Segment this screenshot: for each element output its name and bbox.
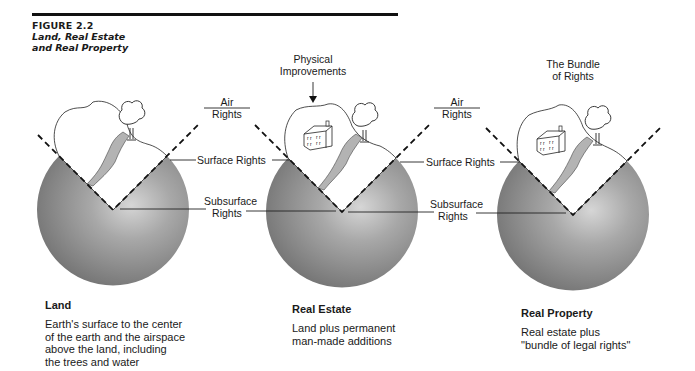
real-property-desc-line: "bundle of legal rights" bbox=[521, 339, 695, 352]
real-estate-desc-line: man-made additions bbox=[292, 335, 492, 348]
air-rights-line1: Air bbox=[206, 96, 248, 108]
subsurface-line2: Rights bbox=[430, 210, 476, 222]
land-desc-line: above the land, including bbox=[45, 343, 245, 356]
surface-rights-label-2: Surface Rights bbox=[426, 156, 495, 168]
surface-rights-label-1: Surface Rights bbox=[197, 154, 266, 166]
air-rights-line2: Rights bbox=[436, 108, 478, 120]
subsurface-line2: Rights bbox=[204, 207, 250, 219]
real-estate-caption-title: Real Estate bbox=[292, 303, 351, 315]
subsurface-line1: Subsurface bbox=[204, 195, 250, 207]
real-property-sphere bbox=[486, 105, 660, 291]
air-rights-label-2: Air Rights bbox=[436, 96, 478, 120]
land-desc-line: of the earth and the airspace bbox=[45, 331, 245, 344]
real-property-caption-description: Real estate plus "bundle of legal rights… bbox=[521, 326, 695, 351]
subsurface-rights-label-2: Subsurface Rights bbox=[430, 198, 476, 222]
subsurface-line1: Subsurface bbox=[430, 198, 476, 210]
bundle-of-rights-line1: The Bundle bbox=[535, 58, 611, 70]
land-caption-title: Land bbox=[45, 299, 71, 311]
physical-improvements-line1: Physical bbox=[275, 53, 351, 65]
land-desc-line: the trees and water bbox=[45, 356, 245, 369]
real-estate-caption-description: Land plus permanent man-made additions bbox=[292, 322, 492, 347]
air-rights-line2: Rights bbox=[206, 108, 248, 120]
bundle-of-rights-label: The Bundle of Rights bbox=[535, 58, 611, 82]
air-rights-line1: Air bbox=[436, 96, 478, 108]
land-sphere bbox=[37, 101, 200, 286]
real-property-caption-title: Real Property bbox=[521, 307, 593, 319]
land-desc-line: Earth's surface to the center bbox=[45, 318, 245, 331]
physical-improvements-label: Physical Improvements bbox=[275, 53, 351, 77]
physical-improvements-line2: Improvements bbox=[275, 65, 351, 77]
air-rights-label-1: Air Rights bbox=[206, 96, 248, 120]
land-caption-description: Earth's surface to the center of the ear… bbox=[45, 318, 245, 368]
real-estate-sphere bbox=[255, 103, 429, 288]
real-property-desc-line: Real estate plus bbox=[521, 326, 695, 339]
bundle-of-rights-line2: of Rights bbox=[535, 70, 611, 82]
subsurface-rights-label-1: Subsurface Rights bbox=[204, 195, 250, 219]
real-estate-desc-line: Land plus permanent bbox=[292, 322, 492, 335]
arrow-down-icon bbox=[309, 96, 317, 103]
